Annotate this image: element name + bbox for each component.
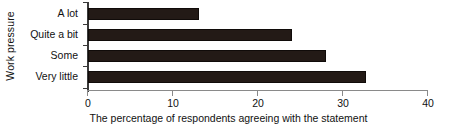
x-axis-tick-mark <box>87 91 88 96</box>
y-axis-tick-label: Some <box>16 50 78 61</box>
x-axis-tick-labels: 0 10 20 30 40 <box>88 97 428 111</box>
x-axis-tick-label: 10 <box>167 97 179 109</box>
y-axis-tick-label: Very little <box>16 71 78 82</box>
y-axis-title-label: Work pressure <box>4 11 16 80</box>
bar-quite-a-bit <box>88 29 292 41</box>
x-axis-tick-label: 30 <box>337 97 349 109</box>
plot-area <box>88 0 428 92</box>
bar-very-little <box>88 71 366 83</box>
bar-chart: Work pressure A lot Quite a bit Some Ver… <box>0 0 457 131</box>
x-axis-tick-label: 20 <box>252 97 264 109</box>
x-axis-tick-label: 0 <box>85 97 91 109</box>
x-axis-tick-mark <box>342 91 343 96</box>
y-axis-tick-mark <box>83 2 88 3</box>
y-axis-tick-label: A lot <box>16 8 78 19</box>
bar-some <box>88 50 326 62</box>
x-axis-tick-mark <box>257 91 258 96</box>
y-axis-tick-mark <box>83 45 88 46</box>
y-axis-tick-mark <box>83 88 88 89</box>
y-axis-tick-label: Quite a bit <box>16 29 78 40</box>
bar-a-lot <box>88 8 199 20</box>
x-axis-tick-label: 40 <box>422 97 434 109</box>
y-axis-tick-mark <box>83 24 88 25</box>
x-axis-tick-mark <box>172 91 173 96</box>
y-axis-tick-labels: A lot Quite a bit Some Very little <box>20 0 82 92</box>
x-axis-tick-mark <box>427 91 428 96</box>
x-axis-title: The percentage of respondents agreeing w… <box>0 112 457 124</box>
y-axis-tick-mark <box>83 66 88 67</box>
